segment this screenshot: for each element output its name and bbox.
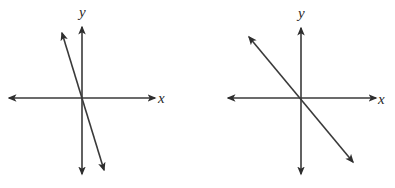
y-axis-label-right: y <box>296 5 305 21</box>
x-axis-label-right: x <box>377 91 385 107</box>
y-axis-label-left: y <box>77 4 86 20</box>
graphs-canvas: x y x y <box>0 0 395 188</box>
graph-line-left <box>62 33 104 170</box>
graph-right: x y <box>228 5 385 174</box>
x-axis-label-left: x <box>157 90 165 106</box>
graph-left: x y <box>9 4 165 174</box>
